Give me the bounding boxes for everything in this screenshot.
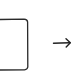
right-arrow-icon	[54, 39, 71, 47]
diagram-canvas	[0, 0, 83, 76]
rectangle-shape	[0, 19, 28, 70]
